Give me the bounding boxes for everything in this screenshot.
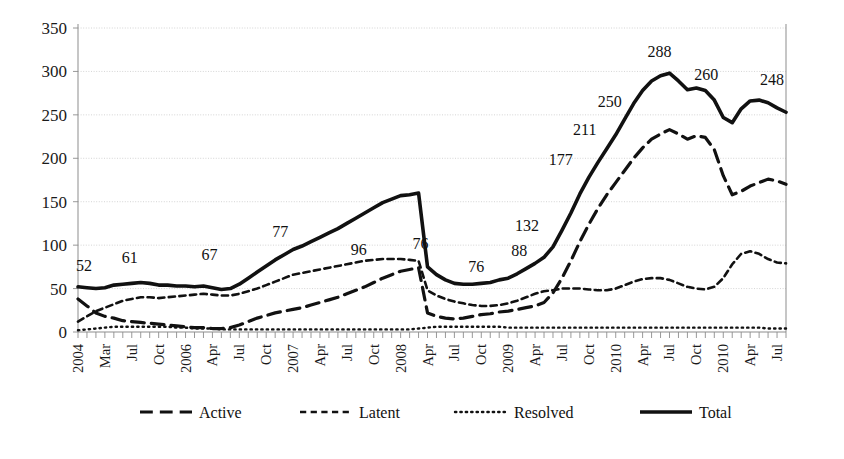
data-point-label: 67 [201, 246, 217, 263]
data-point-label: 61 [122, 249, 138, 266]
x-tick-label: 2010 [715, 344, 731, 373]
x-tick-label: Oct [688, 344, 704, 365]
x-tick-label: Jul [446, 344, 462, 361]
data-point-label: 248 [760, 71, 784, 88]
y-tick-label: 50 [50, 280, 67, 299]
x-tick-label: Oct [258, 344, 274, 365]
x-tick-label: 2006 [178, 344, 194, 373]
x-tick-label: Jul [124, 344, 140, 361]
x-tick-label: Apr [742, 344, 758, 367]
x-tick-label: Jul [661, 344, 677, 361]
data-point-label: 177 [549, 151, 573, 168]
x-tick-label: Mar [97, 344, 113, 368]
x-tick-label: Jul [231, 344, 247, 361]
data-point-label: 288 [647, 43, 671, 60]
x-tick-label: 2008 [393, 344, 409, 373]
data-point-label: 96 [351, 241, 367, 258]
y-tick-label: 300 [42, 62, 68, 81]
x-tick-label: Apr [420, 344, 436, 367]
y-tick-label: 350 [42, 19, 68, 38]
legend-label-resolved: Resolved [514, 404, 574, 421]
x-tick-label: 2009 [500, 344, 516, 373]
legend-label-latent: Latent [359, 404, 400, 421]
x-tick-label: Oct [151, 344, 167, 365]
data-point-label: 132 [515, 217, 539, 234]
data-point-label: 76 [413, 235, 429, 252]
x-tick-label: 2007 [285, 344, 301, 373]
x-tick-label: Jul [554, 344, 570, 361]
data-point-label: 52 [76, 257, 92, 274]
x-tick-label: Apr [312, 344, 328, 367]
data-point-label: 211 [573, 121, 596, 138]
chart-container: 050100150200250300350 2004MarJulOct2006A… [0, 0, 844, 459]
line-chart: 050100150200250300350 2004MarJulOct2006A… [0, 0, 844, 459]
legend-label-active: Active [199, 404, 242, 421]
y-tick-label: 200 [42, 149, 68, 168]
x-tick-label: Apr [204, 344, 220, 367]
x-tick-label: Jul [769, 344, 785, 361]
x-tick-label: Apr [527, 344, 543, 367]
data-point-label: 76 [468, 258, 484, 275]
x-tick-label: Apr [635, 344, 651, 367]
x-tick-label: Oct [581, 344, 597, 365]
y-tick-label: 0 [59, 323, 68, 342]
x-tick-label: 2010 [608, 344, 624, 373]
data-point-label: 77 [272, 223, 288, 240]
x-tick-label: 2004 [70, 343, 86, 373]
legend-label-total: Total [699, 404, 732, 421]
data-point-label: 250 [598, 93, 622, 110]
y-tick-label: 150 [42, 193, 68, 212]
x-tick-label: Jul [339, 344, 355, 361]
data-point-label: 260 [694, 66, 718, 83]
data-point-label: 88 [511, 242, 527, 259]
x-tick-label: Oct [473, 344, 489, 365]
y-tick-label: 250 [42, 106, 68, 125]
y-tick-label: 100 [42, 236, 68, 255]
x-tick-label: Oct [366, 344, 382, 365]
